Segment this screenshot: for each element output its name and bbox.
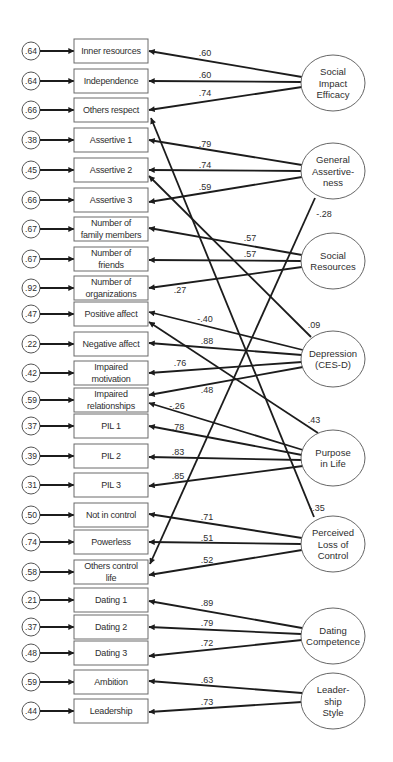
indicator-dating-2: .37Dating 2 bbox=[22, 615, 148, 639]
latent-label: Control bbox=[318, 550, 349, 561]
latent-label: Perceived bbox=[312, 527, 354, 538]
indicator-label: Inner resources bbox=[81, 46, 141, 56]
indicator-label: Impaired bbox=[94, 389, 128, 399]
error-term: .31 bbox=[22, 476, 40, 494]
indicator-others-respect: .66Others respect bbox=[22, 98, 148, 122]
indicator-number-of-organizations: .92Number oforganizations bbox=[22, 276, 148, 300]
indicator-impaired-relationships: .59Impairedrelationships bbox=[22, 388, 148, 412]
path-coefficient: .52 bbox=[201, 555, 214, 565]
error-term: .64 bbox=[22, 42, 40, 60]
latent-label: Impact bbox=[319, 78, 348, 89]
latent-general-assertiveness: GeneralAssertive-ness bbox=[301, 143, 365, 199]
indicator-pil-2: .39PIL 2 bbox=[22, 444, 148, 468]
error-term: .38 bbox=[22, 131, 40, 149]
path-coefficient: .89 bbox=[201, 598, 214, 608]
latent-label: General bbox=[316, 154, 350, 165]
error-term: .58 bbox=[22, 563, 40, 581]
path-coefficient: .78 bbox=[172, 422, 185, 432]
path-coefficient: .57 bbox=[244, 249, 257, 259]
error-term: .47 bbox=[22, 305, 40, 323]
indicator-inner-resources: .64Inner resources bbox=[22, 39, 148, 63]
indicator-label: motivation bbox=[91, 374, 130, 384]
indicator-powerless: .74Powerless bbox=[22, 530, 148, 554]
indicator-label: Assertive 2 bbox=[90, 165, 133, 175]
indicator-label: Number of bbox=[91, 218, 132, 228]
indicator-label: Negative affect bbox=[83, 339, 141, 349]
path-coefficient: .51 bbox=[201, 533, 214, 543]
path-coefficient: -.26 bbox=[169, 401, 185, 411]
error-term: .59 bbox=[22, 391, 40, 409]
indicator-label: family members bbox=[81, 230, 142, 240]
path-arrow-general-assertiveness-to-assertive-1 bbox=[149, 140, 302, 165]
path-arrow-social-impact-efficacy-to-inner-resources bbox=[149, 51, 302, 77]
path-coefficient: .43 bbox=[308, 415, 321, 425]
error-value: .48 bbox=[25, 648, 37, 658]
latent-depression-ces-d: Depression(CES-D) bbox=[301, 331, 365, 387]
latent-label: Leader- bbox=[317, 684, 350, 695]
indicator-dating-1: .21Dating 1 bbox=[22, 588, 148, 612]
path-coefficient: .63 bbox=[201, 675, 214, 685]
error-value: .42 bbox=[25, 368, 37, 378]
error-value: .59 bbox=[25, 395, 37, 405]
path-arrow-perceived-loss-of-control-to-others-control-life bbox=[149, 550, 302, 575]
indicator-label: Dating 3 bbox=[95, 648, 127, 658]
error-value: .74 bbox=[25, 537, 37, 547]
error-value: .64 bbox=[25, 46, 37, 56]
error-term: .44 bbox=[22, 702, 40, 720]
error-term: .92 bbox=[22, 279, 40, 297]
indicator-leadership: .44Leadership bbox=[22, 699, 148, 723]
indicator-label: Independence bbox=[84, 76, 139, 86]
indicator-label: friends bbox=[98, 260, 124, 270]
indicator-assertive-3: .66Assertive 3 bbox=[22, 188, 148, 212]
indicator-label: Dating 2 bbox=[95, 622, 127, 632]
path-arrow-perceived-loss-of-control-to-powerless bbox=[149, 542, 301, 544]
latent-label: in Life bbox=[320, 458, 345, 469]
path-arrow-dating-competence-to-dating-2 bbox=[149, 627, 301, 634]
error-term: .48 bbox=[22, 644, 40, 662]
latent-label: Resources bbox=[310, 261, 356, 272]
latent-label: Depression bbox=[309, 348, 357, 359]
latent-social-impact-efficacy: SocialImpactEfficacy bbox=[301, 55, 365, 111]
error-value: .45 bbox=[25, 165, 37, 175]
indicator-label: PIL 2 bbox=[101, 451, 121, 461]
indicator-label: Positive affect bbox=[85, 309, 139, 319]
latent-label: Style bbox=[322, 707, 343, 718]
error-term: .37 bbox=[22, 417, 40, 435]
indicator-label: organizations bbox=[86, 289, 138, 299]
error-term: .67 bbox=[22, 220, 40, 238]
error-value: .22 bbox=[25, 339, 37, 349]
indicator-label: life bbox=[106, 573, 117, 583]
error-value: .21 bbox=[25, 595, 37, 605]
indicator-label: Assertive 1 bbox=[90, 135, 133, 145]
indicator-label: Number of bbox=[91, 277, 132, 287]
indicator-dating-3: .48Dating 3 bbox=[22, 641, 148, 665]
indicator-pil-3: .31PIL 3 bbox=[22, 473, 148, 497]
latent-layer: SocialImpactEfficacyGeneralAssertive-nes… bbox=[301, 55, 365, 729]
error-term: .42 bbox=[22, 364, 40, 382]
path-coefficient: .09 bbox=[308, 320, 321, 330]
error-term: .74 bbox=[22, 533, 40, 551]
sem-path-diagram: .64Inner resources.64Independence.66Othe… bbox=[0, 0, 393, 762]
path-arrow-purpose-in-life-to-pil-2 bbox=[149, 457, 302, 460]
error-term: .45 bbox=[22, 161, 40, 179]
error-value: .67 bbox=[25, 254, 37, 264]
indicator-assertive-1: .38Assertive 1 bbox=[22, 128, 148, 152]
indicator-label: Not in control bbox=[86, 510, 136, 520]
path-coefficient: .60 bbox=[199, 70, 212, 80]
path-coefficient: .83 bbox=[172, 447, 185, 457]
error-term: .39 bbox=[22, 447, 40, 465]
indicator-label: Others respect bbox=[83, 105, 140, 115]
error-value: .66 bbox=[25, 195, 37, 205]
error-term: .59 bbox=[22, 673, 40, 691]
latent-dating-competence: DatingCompetence bbox=[301, 608, 365, 664]
indicator-ambition: .59Ambition bbox=[22, 670, 148, 694]
path-coefficient: .59 bbox=[199, 182, 212, 192]
path-coefficient: -.28 bbox=[316, 209, 332, 219]
error-value: .47 bbox=[25, 309, 37, 319]
indicator-number-of-family-members: .67Number offamily members bbox=[22, 217, 148, 241]
error-value: .37 bbox=[25, 421, 37, 431]
error-term: .66 bbox=[22, 191, 40, 209]
indicator-label: PIL 1 bbox=[101, 421, 121, 431]
indicator-positive-affect: .47Positive affect bbox=[22, 302, 148, 326]
path-arrow-dating-competence-to-dating-1 bbox=[149, 601, 302, 628]
